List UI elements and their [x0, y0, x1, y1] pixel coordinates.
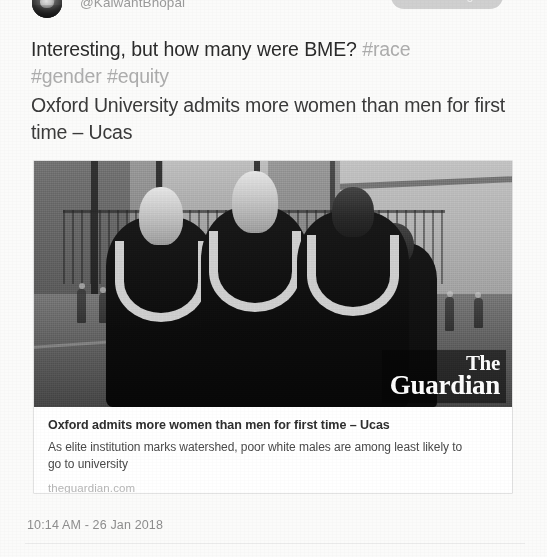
following-button[interactable]: Following: [391, 0, 503, 9]
avatar-shadow: [32, 5, 62, 18]
tweet-link-title[interactable]: Oxford University admits more women than…: [31, 92, 523, 146]
hashtag-gender-equity[interactable]: #gender #equity: [31, 65, 169, 87]
card-description: As elite institution marks watershed, po…: [48, 439, 478, 473]
guardian-watermark-name: Guardian: [390, 373, 500, 398]
card-image[interactable]: The Guardian: [34, 161, 512, 407]
card-domain[interactable]: theguardian.com: [48, 482, 498, 494]
card-body: Oxford admits more women than men for fi…: [34, 407, 512, 494]
account-handle[interactable]: @KalwantBhopal: [80, 0, 185, 10]
avatar[interactable]: [32, 0, 62, 18]
tweet-text-plain: Interesting, but how many were BME?: [31, 38, 362, 60]
tweet-detail-screen: @KalwantBhopal Following Interesting, bu…: [0, 0, 547, 557]
tweet-header: @KalwantBhopal Following: [0, 0, 547, 28]
link-preview-card[interactable]: The Guardian Oxford admits more women th…: [33, 160, 513, 494]
hashtag-race[interactable]: #race: [362, 38, 410, 60]
chevron-down-icon[interactable]: [507, 0, 521, 2]
card-title[interactable]: Oxford admits more women than men for fi…: [48, 417, 498, 434]
guardian-watermark: The Guardian: [382, 350, 506, 403]
tweet-body-text: Interesting, but how many were BME? #rac…: [31, 36, 517, 90]
tweet-timestamp[interactable]: 10:14 AM - 26 Jan 2018: [27, 518, 163, 532]
footer-divider: [25, 543, 525, 544]
